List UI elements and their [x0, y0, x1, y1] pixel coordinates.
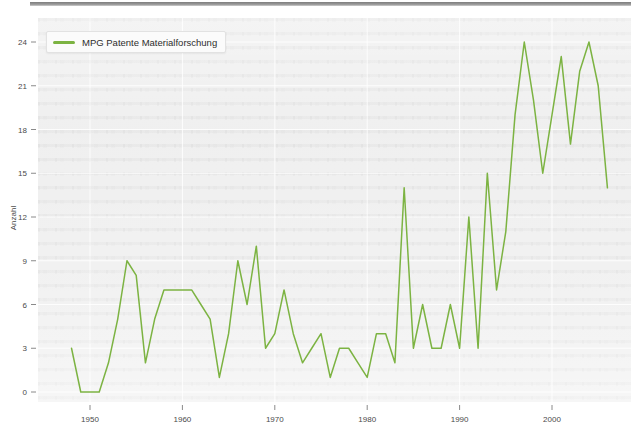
- axis-ticks: [31, 42, 552, 410]
- legend-line-swatch: [53, 41, 75, 44]
- y-axis-title: Anzahl: [9, 206, 18, 231]
- x-tick-label: 1960: [174, 415, 192, 424]
- x-tick-label: 1950: [81, 415, 99, 424]
- gridlines: [38, 18, 631, 402]
- x-tick-label: 2000: [543, 415, 561, 424]
- y-tick-label: 21: [18, 82, 27, 91]
- y-tick-label: 6: [23, 301, 28, 310]
- legend-label-series-1: MPG Patente Materialforschung: [82, 37, 217, 48]
- chart-container: 03691215182124 195019601970198019902000 …: [0, 0, 639, 442]
- y-tick-label: 15: [18, 169, 27, 178]
- y-axis-tick-labels: 03691215182124: [18, 38, 27, 397]
- y-tick-label: 3: [23, 344, 28, 353]
- chart-legend[interactable]: MPG Patente Materialforschung: [46, 31, 226, 53]
- y-tick-label: 12: [18, 213, 27, 222]
- y-tick-label: 9: [23, 257, 28, 266]
- x-tick-label: 1970: [266, 415, 284, 424]
- chart-page: 03691215182124 195019601970198019902000 …: [0, 0, 639, 442]
- line-chart-svg: 03691215182124 195019601970198019902000 …: [0, 0, 639, 442]
- y-tick-label: 24: [18, 38, 27, 47]
- x-tick-label: 1990: [451, 415, 469, 424]
- x-tick-label: 1980: [358, 415, 376, 424]
- x-axis-tick-labels: 195019601970198019902000: [81, 415, 561, 424]
- y-tick-label: 0: [23, 388, 28, 397]
- y-tick-label: 18: [18, 126, 27, 135]
